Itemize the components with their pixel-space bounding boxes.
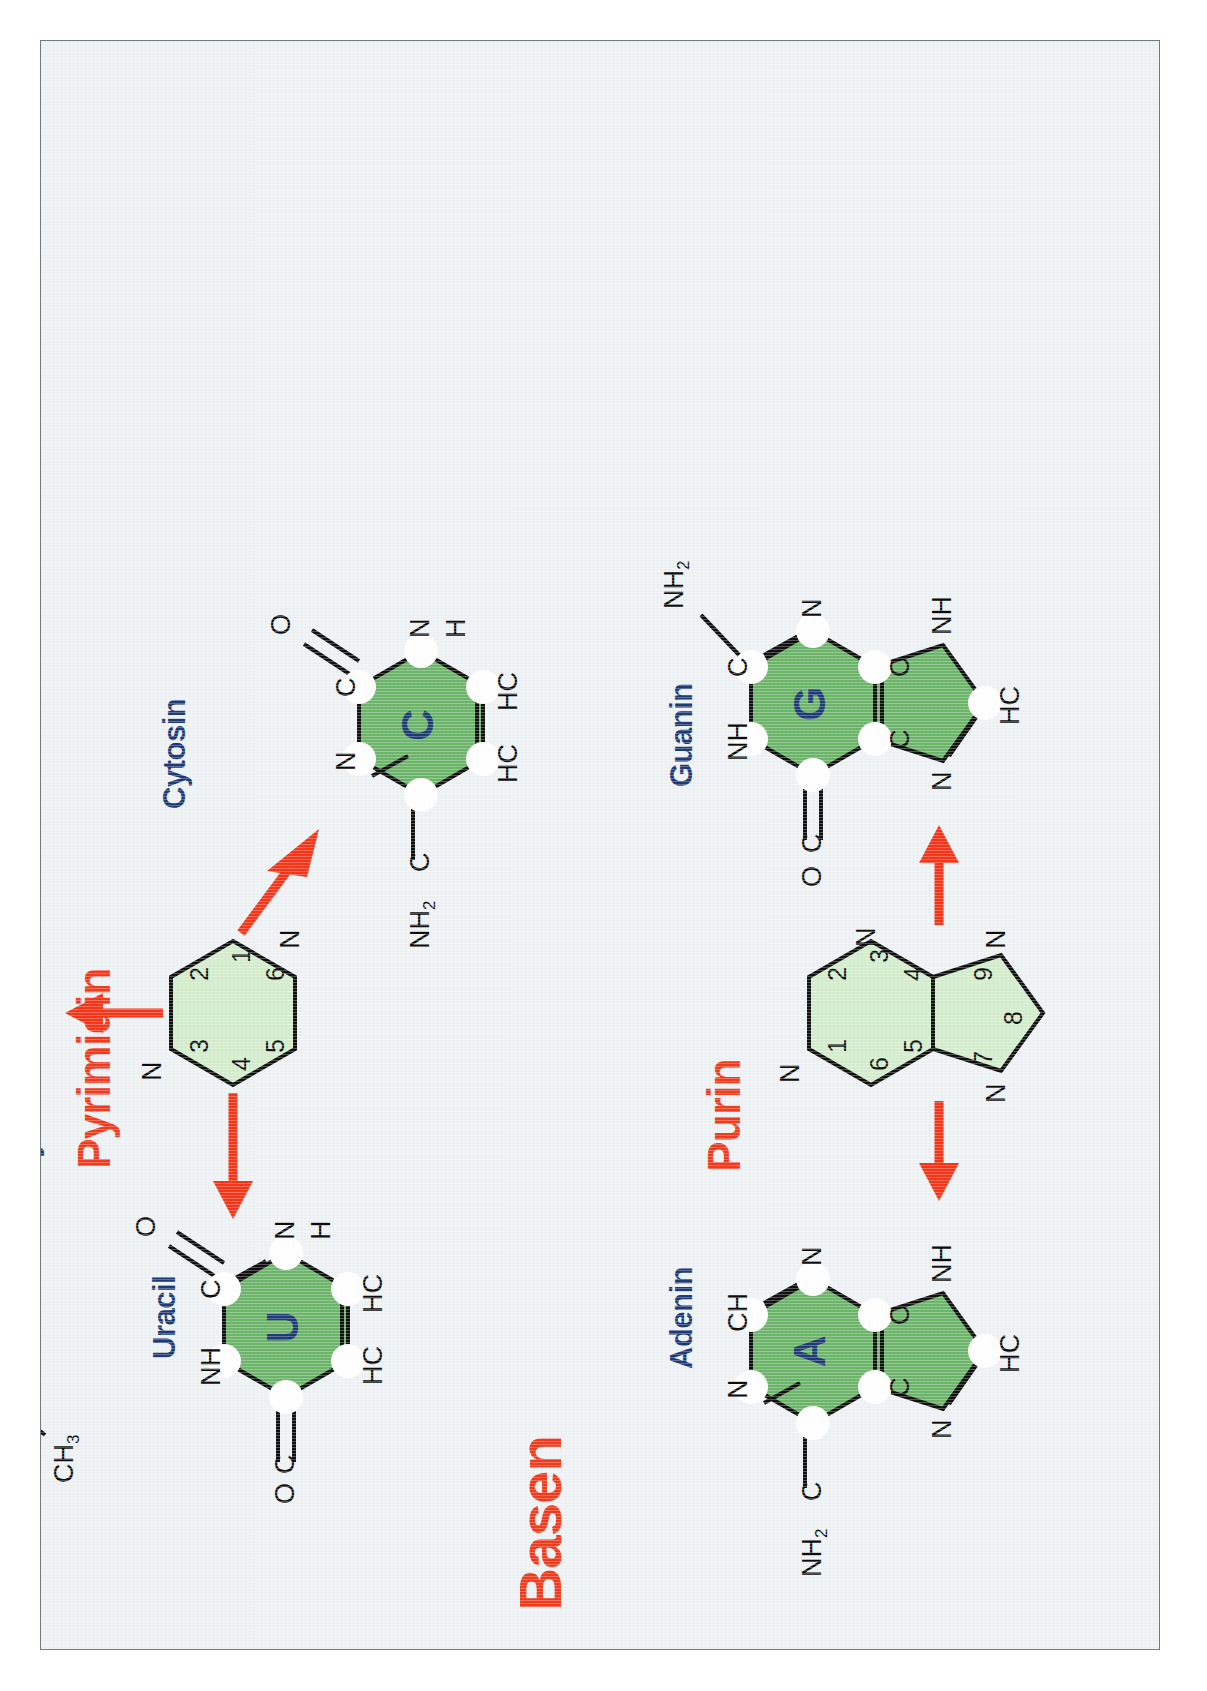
guanin-structure (41, 41, 1159, 1649)
guanin-center-letter: G (788, 687, 832, 721)
guanin-nh2-label: NH2 (661, 561, 692, 609)
guanin-c-top-right-label: C (725, 658, 752, 678)
poster-content-rotated: Basen Pyrimidin N N 2 3 4 5 6 1 (41, 41, 1159, 1649)
poster-page: Basen Pyrimidin N N 2 3 4 5 6 1 (0, 0, 1207, 1691)
poster-sheet: Basen Pyrimidin N N 2 3 4 5 6 1 (40, 40, 1160, 1650)
guanin-o-left-label: O (799, 866, 826, 887)
guanin-hc5-label: HC (997, 686, 1024, 725)
guanin-c-bottom-left-label: C (887, 730, 914, 750)
guanin-c-left-label: C (799, 834, 826, 854)
guanin-nh-top-left-label: NH (725, 722, 752, 761)
guanin-n5-label: N (929, 772, 956, 792)
guanin-n-right-label: N (799, 599, 826, 619)
guanin-c-bottom-right-label: C (887, 658, 914, 678)
guanin-nh5-label: NH (929, 596, 956, 635)
